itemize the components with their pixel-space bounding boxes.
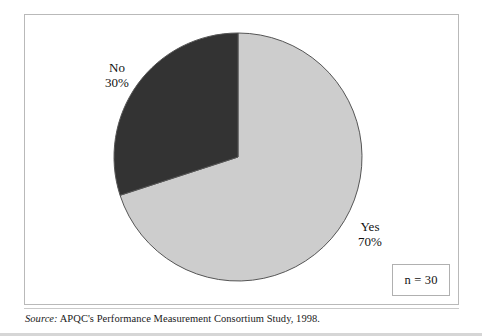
pie-label-no-value: 30% (86, 75, 148, 90)
pie-label-no: No 30% (86, 60, 148, 91)
sample-size-label: n = 30 (404, 273, 437, 288)
pie-slice-group (114, 33, 362, 281)
pie-label-yes-value: 70% (339, 234, 401, 249)
source-prefix: Source: (25, 313, 58, 324)
source-divider (24, 308, 459, 309)
source-text: APQC's Performance Measurement Consortiu… (58, 313, 320, 324)
pie-label-yes-name: Yes (339, 219, 401, 234)
source-note: Source: APQC's Performance Measurement C… (25, 313, 320, 324)
sample-size-box: n = 30 (392, 264, 450, 296)
pie-label-yes: Yes 70% (339, 219, 401, 250)
pie-label-no-name: No (86, 60, 148, 75)
